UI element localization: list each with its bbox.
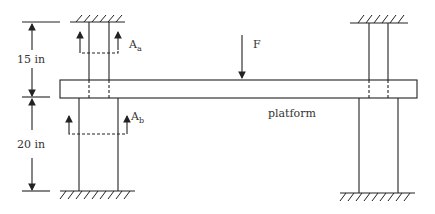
right-bottom-fixed-support [340,193,415,201]
platform-label: platform [268,107,316,120]
section-b-subscript: b [139,116,144,125]
left-bottom-fixed-support [60,191,135,199]
right-lower-column [359,98,398,193]
left-top-fixed-support [70,15,125,22]
platform-beam [60,80,417,98]
force-label: F [253,38,261,51]
right-upper-column [369,23,388,98]
left-upper-column [89,22,109,98]
platform-column-diagram: 15 in 20 in A a platform F [0,0,435,214]
upper-dimension-label: 15 in [17,53,45,66]
left-lower-column [79,98,118,191]
section-cut-a [80,32,118,53]
lower-dimension-label: 20 in [17,138,45,151]
right-top-fixed-support [350,15,408,23]
section-a-subscript: a [137,44,142,53]
